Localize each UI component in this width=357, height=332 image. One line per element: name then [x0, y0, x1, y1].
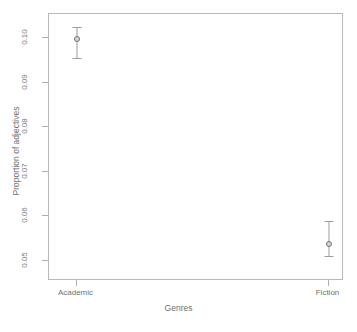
x-axis-tick-label: Academic — [58, 288, 93, 297]
error-bar-line — [328, 221, 329, 255]
x-axis-title: Genres — [0, 303, 357, 313]
data-point-marker — [74, 36, 80, 42]
error-bar-cap-upper — [324, 221, 333, 222]
error-bar-cap-lower — [72, 58, 81, 59]
chart-container: Proportion of adjectives Genres 0.050.06… — [0, 0, 357, 332]
x-axis-tick — [328, 280, 329, 286]
y-axis-tick-label: 0.05 — [20, 245, 30, 275]
data-point-marker — [326, 241, 332, 247]
y-axis-tick-label: 0.07 — [20, 156, 30, 186]
y-axis-title: Proportion of adjectives — [11, 91, 21, 211]
error-bar-line — [76, 27, 77, 58]
plot-area — [48, 13, 343, 280]
y-axis-tick-label: 0.06 — [20, 200, 30, 230]
y-axis-tick-label: 0.09 — [20, 67, 30, 97]
y-axis-tick-label: 0.08 — [20, 111, 30, 141]
x-axis-tick-label: Fiction — [316, 288, 340, 297]
error-bar-cap-lower — [324, 256, 333, 257]
x-axis-tick — [76, 280, 77, 286]
y-axis-tick-label: 0.10 — [20, 22, 30, 52]
error-bar-cap-upper — [72, 27, 81, 28]
